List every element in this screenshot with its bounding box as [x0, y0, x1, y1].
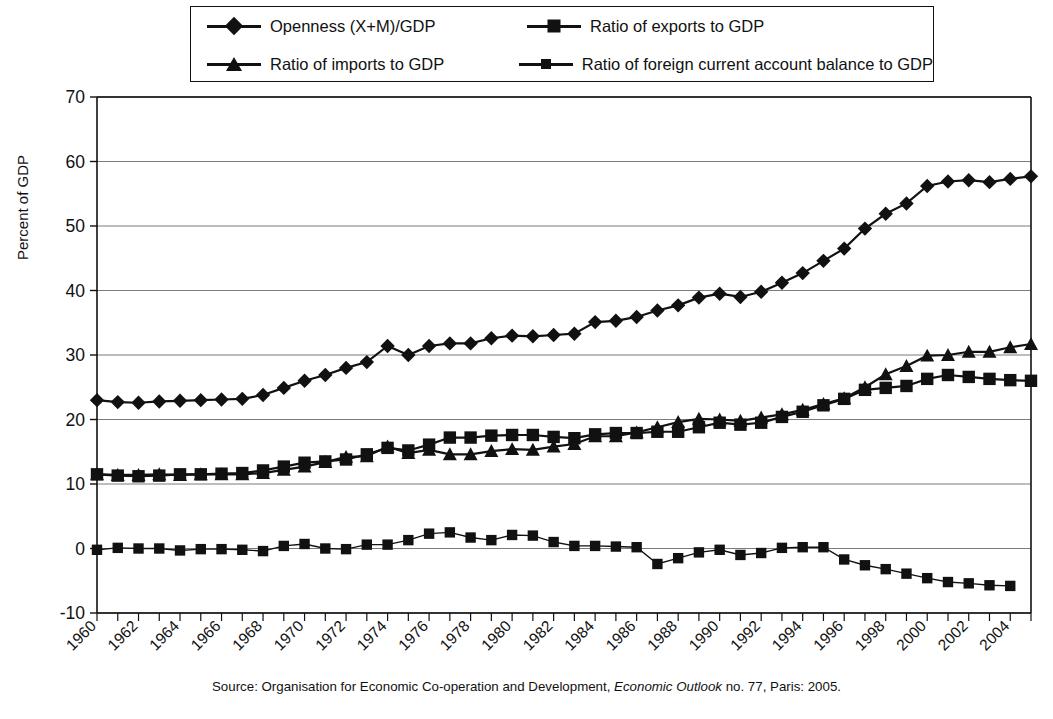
data-point-square-small	[590, 541, 600, 551]
x-tick-label: 1990	[685, 617, 722, 654]
data-point-square-small	[465, 532, 475, 542]
data-point-square-small	[424, 528, 434, 538]
data-point-square-small	[756, 548, 766, 558]
y-tick-label: -10	[60, 603, 86, 623]
data-point-square-small	[818, 542, 828, 552]
data-point-square	[963, 371, 975, 383]
data-point-square-small	[154, 543, 164, 553]
y-tick-label: 60	[66, 152, 86, 172]
data-point-square-small	[299, 539, 309, 549]
data-point-square-small	[652, 559, 662, 569]
data-point-diamond	[194, 393, 208, 407]
data-point-triangle	[879, 367, 893, 380]
x-tick-label: 1996	[810, 617, 846, 653]
data-point-square-small	[237, 545, 247, 555]
data-point-diamond	[546, 328, 560, 342]
data-point-square	[983, 373, 995, 385]
data-point-square	[527, 429, 539, 441]
data-point-square-small	[777, 543, 787, 553]
data-point-square	[880, 382, 892, 394]
data-point-square	[485, 429, 497, 441]
data-point-square-small	[611, 541, 621, 551]
data-point-square-small	[984, 580, 994, 590]
y-tick-label: 70	[66, 87, 86, 107]
data-point-square-small	[901, 568, 911, 578]
x-tick-label: 1970	[270, 617, 307, 654]
x-tick-label: 1994	[768, 617, 805, 654]
data-point-diamond	[90, 393, 104, 407]
chart-svg: -100102030405060701960196219641966196819…	[0, 0, 1053, 719]
data-point-square-small	[797, 542, 807, 552]
data-point-diamond	[111, 395, 125, 409]
data-point-square-small	[943, 577, 953, 587]
data-point-diamond	[339, 361, 353, 375]
data-point-diamond	[463, 336, 477, 350]
x-tick-label: 1966	[187, 617, 223, 653]
data-point-diamond	[235, 392, 249, 406]
data-point-square-small	[133, 543, 143, 553]
data-point-square-small	[673, 553, 683, 563]
data-point-square-small	[113, 543, 123, 553]
chart-plot-area: -100102030405060701960196219641966196819…	[0, 0, 1053, 719]
data-point-square-small	[445, 527, 455, 537]
data-point-diamond	[733, 290, 747, 304]
series-3	[92, 527, 1016, 591]
data-point-diamond	[692, 290, 706, 304]
x-tick-label: 1982	[519, 617, 555, 653]
data-point-diamond	[131, 396, 145, 410]
data-point-diamond	[816, 254, 830, 268]
data-point-square-small	[403, 535, 413, 545]
y-tick-label: 50	[66, 216, 86, 236]
data-point-diamond	[318, 368, 332, 382]
x-tick-label: 1964	[146, 617, 183, 654]
y-tick-label: 40	[66, 281, 86, 301]
chart-source-note: Source: Organisation for Economic Co-ope…	[0, 679, 1053, 694]
data-point-diamond	[941, 174, 955, 188]
data-point-square-small	[922, 573, 932, 583]
data-point-square-small	[341, 544, 351, 554]
data-point-square-small	[839, 554, 849, 564]
x-tick-label: 1972	[312, 617, 348, 653]
x-tick-label: 1974	[353, 617, 390, 654]
data-point-diamond	[256, 388, 270, 402]
x-tick-label: 1978	[436, 617, 472, 653]
data-point-diamond	[754, 285, 768, 299]
x-tick-label: 2002	[934, 617, 970, 653]
data-point-diamond	[795, 266, 809, 280]
y-tick-label: 10	[66, 474, 86, 494]
x-tick-label: 1992	[727, 617, 763, 653]
x-tick-label: 1980	[478, 617, 515, 654]
data-point-diamond	[422, 339, 436, 353]
data-point-diamond	[982, 175, 996, 189]
data-point-square-small	[569, 541, 579, 551]
data-point-square-small	[175, 545, 185, 555]
data-point-square-small	[320, 543, 330, 553]
data-point-diamond	[526, 329, 540, 343]
y-tick-label: 0	[75, 539, 85, 559]
data-point-diamond	[443, 336, 457, 350]
data-point-diamond	[567, 327, 581, 341]
data-point-diamond	[1003, 172, 1017, 186]
data-point-diamond	[277, 381, 291, 395]
data-point-square	[464, 431, 476, 443]
data-point-square-small	[1005, 581, 1015, 591]
series-1	[91, 369, 1037, 483]
data-point-diamond	[173, 394, 187, 408]
source-suffix: no. 77, Paris: 2005.	[722, 679, 841, 694]
x-tick-label: 1968	[229, 617, 265, 653]
data-point-diamond	[609, 314, 623, 328]
data-point-square-small	[528, 530, 538, 540]
series-0	[90, 169, 1038, 410]
x-tick-label: 2000	[893, 617, 930, 654]
x-tick-label: 1998	[851, 617, 887, 653]
x-tick-label: 1976	[395, 617, 431, 653]
data-point-diamond	[879, 207, 893, 221]
data-point-square-small	[362, 539, 372, 549]
data-point-square-small	[279, 541, 289, 551]
data-point-square-small	[881, 564, 891, 574]
data-point-square-small	[507, 530, 517, 540]
data-point-diamond	[629, 310, 643, 324]
data-point-diamond	[297, 374, 311, 388]
source-italic: Economic Outlook	[614, 679, 722, 694]
series-line	[97, 344, 1031, 475]
